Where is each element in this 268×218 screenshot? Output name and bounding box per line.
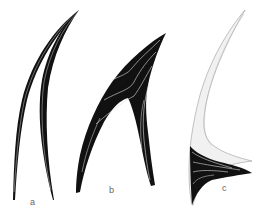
panel-a-shape [13,10,79,200]
panel-label-b: b [109,186,114,195]
panel-label-c: c [222,184,227,193]
panel-c-shape [189,10,252,205]
panel-label-a: a [30,198,35,207]
figure-drawing [0,0,268,218]
panel-b-shape [76,33,166,193]
specimen-figure: a b c [0,0,268,218]
